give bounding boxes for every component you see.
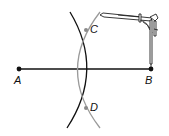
construction-drawing <box>0 0 169 136</box>
point-d <box>84 106 88 110</box>
point-c <box>84 28 88 32</box>
label-b: B <box>145 75 152 86</box>
compass-icon <box>100 13 158 67</box>
point-a <box>17 67 22 72</box>
label-d: D <box>90 102 98 113</box>
label-a: A <box>14 75 21 86</box>
diagram-canvas: A B C D <box>0 0 169 136</box>
point-b <box>149 67 154 72</box>
label-c: C <box>90 24 98 35</box>
